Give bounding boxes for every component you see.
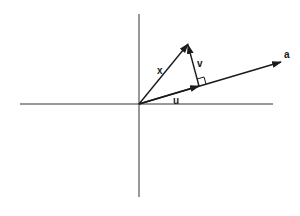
label-v: v — [197, 58, 203, 69]
label-u: u — [173, 95, 179, 106]
vector-projection-diagram: x v u a — [0, 0, 300, 216]
vector-x-arrow — [139, 44, 188, 104]
label-x: x — [157, 65, 163, 76]
label-a: a — [284, 49, 290, 60]
vector-u-arrow — [139, 86, 199, 104]
